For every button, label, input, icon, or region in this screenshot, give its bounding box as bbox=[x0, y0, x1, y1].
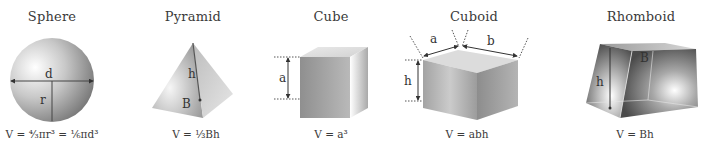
pyramid-formula: V = ⅓Bh bbox=[172, 128, 220, 140]
rhomboid-label-h: h bbox=[596, 75, 604, 89]
cube-figure: a bbox=[274, 47, 368, 118]
sphere-formula: V = ⁴⁄₃πr³ = ⅙πd³ bbox=[6, 128, 99, 140]
rhomboid-figure: h B bbox=[586, 43, 698, 118]
sphere-title: Sphere bbox=[28, 9, 76, 24]
cube-title: Cube bbox=[313, 9, 348, 24]
sphere-label-r: r bbox=[40, 93, 46, 107]
base-point bbox=[199, 99, 202, 102]
cuboid-formula: V = abh bbox=[446, 128, 489, 140]
pyramid-figure: h B bbox=[152, 43, 233, 118]
cuboid-guide-a-right bbox=[452, 30, 459, 47]
cuboid-label-b: b bbox=[487, 34, 495, 48]
cuboid-label-a: a bbox=[430, 32, 437, 46]
shapes-diagram: d r h B a a b h bbox=[0, 0, 705, 150]
cuboid-label-h: h bbox=[404, 74, 412, 88]
rhomboid-label-b: B bbox=[640, 51, 649, 65]
rhomboid-side-face bbox=[620, 49, 698, 118]
cube-formula: V = a³ bbox=[314, 128, 348, 140]
rhomboid-base-point bbox=[609, 107, 612, 110]
pyramid-title: Pyramid bbox=[165, 9, 221, 24]
pyramid-label-b: B bbox=[182, 97, 191, 111]
cuboid-figure: a b h bbox=[404, 30, 528, 120]
cube-side-face bbox=[350, 47, 368, 118]
rhomboid-formula: V = Bh bbox=[616, 128, 654, 140]
cuboid-guide-a-left bbox=[410, 36, 423, 58]
pyramid-label-h: h bbox=[188, 67, 196, 81]
cube-front-face bbox=[300, 57, 350, 118]
cuboid-guide-b-left bbox=[462, 30, 468, 47]
cuboid-title: Cuboid bbox=[450, 9, 498, 24]
cube-label-a: a bbox=[279, 71, 286, 85]
cuboid-guide-b-right bbox=[519, 38, 528, 58]
sphere-label-d: d bbox=[45, 67, 53, 81]
sphere-figure: d r bbox=[10, 38, 94, 122]
rhomboid-title: Rhomboid bbox=[607, 9, 676, 24]
